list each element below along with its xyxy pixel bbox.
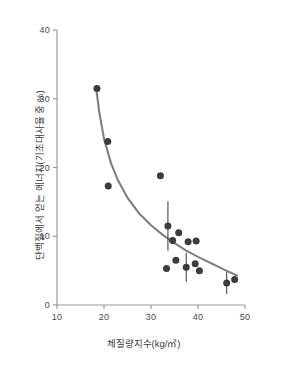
data-points-group [93, 85, 238, 287]
data-point [196, 267, 203, 274]
scatter-chart-figure: 1020304050 010203040 체질량지수(kg/㎡) 단백질에서 얻… [0, 0, 287, 374]
data-point [169, 237, 176, 244]
data-point [164, 222, 171, 229]
x-tick-label: 10 [52, 312, 62, 322]
data-point [172, 257, 179, 264]
x-tick-label: 40 [193, 312, 203, 322]
data-point [223, 280, 230, 287]
data-point [183, 264, 190, 271]
x-axis-title: 체질량지수(kg/㎡) [0, 336, 287, 350]
x-tick-label: 30 [146, 312, 156, 322]
data-point [105, 183, 112, 190]
data-point [93, 85, 100, 92]
data-point [185, 238, 192, 245]
y-axis-title: 단백질에서 얻는 에너지(기초대사율 중 %) [32, 50, 46, 300]
data-point [157, 172, 164, 179]
data-point [193, 238, 200, 245]
data-point [192, 260, 199, 267]
data-point [104, 138, 111, 145]
data-point [163, 265, 170, 272]
error-bars-group [168, 201, 227, 294]
x-tick-label: 20 [99, 312, 109, 322]
x-tick-label: 50 [240, 312, 250, 322]
trend-curve [96, 91, 237, 276]
data-point [175, 229, 182, 236]
data-point [231, 276, 238, 283]
y-tick-label: 40 [26, 25, 50, 35]
y-tick-label: 0 [26, 300, 50, 310]
